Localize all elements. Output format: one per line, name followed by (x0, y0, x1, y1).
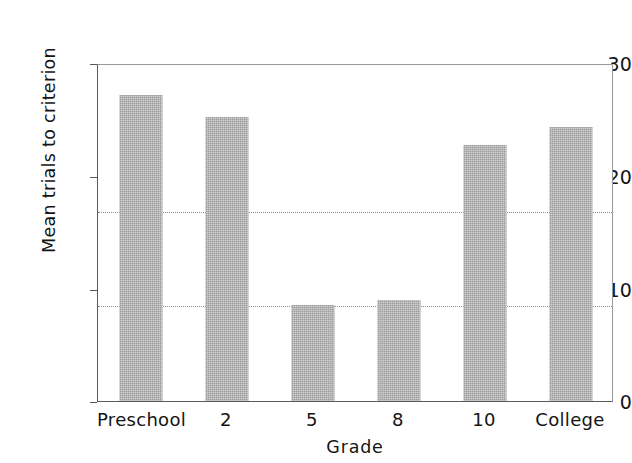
y-tick-mark-0 (90, 402, 97, 403)
bar-slot-college (528, 65, 614, 401)
x-tick-label-preschool: Preschool (97, 410, 183, 430)
y-axis-title: Mean trials to criterion (39, 25, 59, 275)
bar-preschool (120, 95, 163, 401)
x-tick-label-college: College (527, 410, 613, 430)
x-tick-label-grade-8: 8 (355, 410, 441, 430)
plot-area (97, 64, 613, 402)
x-tick-label-grade-10: 10 (441, 410, 527, 430)
x-tick-label-grade-5: 5 (269, 410, 355, 430)
bar-college (550, 127, 593, 401)
bar-grade-8 (378, 300, 421, 401)
y-tick-mark-10 (90, 290, 97, 291)
bar-slot-preschool (98, 65, 184, 401)
x-axis-title: Grade (97, 437, 613, 457)
bar-slot-grade-5 (270, 65, 356, 401)
bar-chart: Mean trials to criterion 0 10 20 30 (0, 0, 632, 463)
x-tick-label-grade-2: 2 (183, 410, 269, 430)
bar-grade-5 (292, 305, 335, 401)
bar-slot-grade-2 (184, 65, 270, 401)
y-tick-mark-20 (90, 177, 97, 178)
bar-grade-10 (464, 145, 507, 401)
bar-grade-2 (206, 117, 249, 401)
bar-slot-grade-10 (442, 65, 528, 401)
bars-layer (98, 65, 612, 401)
y-tick-mark-30 (90, 64, 97, 65)
bar-slot-grade-8 (356, 65, 442, 401)
